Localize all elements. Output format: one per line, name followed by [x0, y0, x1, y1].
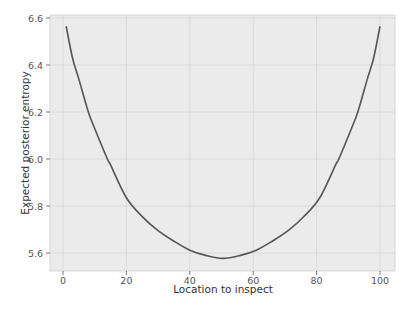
x-tick-label: 100: [371, 275, 389, 286]
x-axis-label: Location to inspect: [173, 283, 273, 295]
x-tick-label: 0: [60, 275, 66, 286]
x-tick-label: 80: [311, 275, 323, 286]
y-axis-label: Expected posterior entropy: [19, 71, 31, 214]
entropy-line-chart: 020406080100 5.65.86.06.26.46.6 Location…: [0, 0, 414, 311]
plot-area: [50, 15, 395, 271]
y-tick-label: 6.6: [28, 13, 43, 24]
x-tick-label: 20: [120, 275, 132, 286]
y-tick-label: 5.6: [28, 248, 43, 259]
y-tick-label: 6.4: [28, 60, 43, 71]
y-axis-ticks: 5.65.86.06.26.46.6: [28, 13, 50, 259]
